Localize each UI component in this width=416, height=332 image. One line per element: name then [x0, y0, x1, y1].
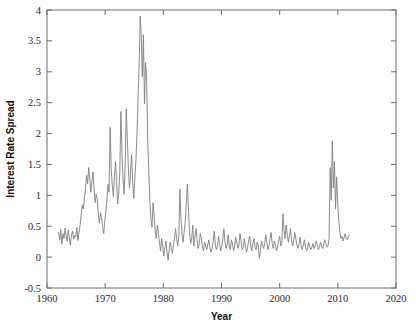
series-interest-rate-spread [59, 16, 350, 260]
y-tick-label: 2.5 [28, 97, 41, 108]
x-axis-tick-labels: 1960197019801990200020102020 [37, 293, 407, 304]
x-axis-title: Year [211, 311, 232, 322]
y-tick-label: 0.5 [28, 221, 41, 232]
x-tick-label: 1980 [153, 293, 174, 304]
y-tick-label: 1.5 [28, 159, 41, 170]
x-tick-label: 1960 [37, 293, 58, 304]
interest-rate-spread-line-chart: 1960197019801990200020102020 -0.500.511.… [0, 0, 416, 332]
y-axis-tick-labels: -0.500.511.522.533.54 [24, 5, 41, 294]
y-axis-title: Interest Rate Spread [5, 100, 16, 197]
x-tick-label: 2000 [269, 293, 290, 304]
y-tick-label: 4 [36, 5, 42, 16]
y-tick-label: 2 [36, 128, 41, 139]
x-tick-label: 1970 [95, 293, 116, 304]
chart-figure: 1960197019801990200020102020 -0.500.511.… [0, 0, 416, 332]
y-tick-label: 3.5 [28, 35, 41, 46]
data-series-group [59, 16, 350, 260]
y-tick-label: 0 [36, 252, 41, 263]
x-tick-label: 2010 [327, 293, 348, 304]
x-tick-label: 2020 [386, 293, 407, 304]
x-tick-label: 1990 [211, 293, 232, 304]
y-tick-label: 3 [36, 66, 41, 77]
y-tick-label: -0.5 [24, 283, 41, 294]
y-tick-label: 1 [36, 190, 41, 201]
